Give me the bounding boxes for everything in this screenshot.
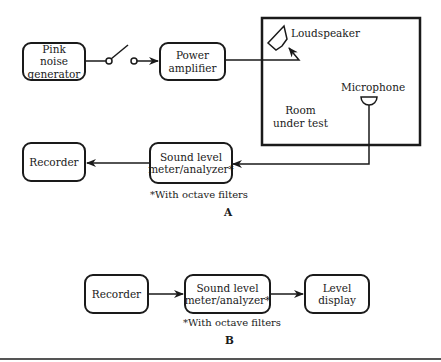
sound-level-meter-box-b: Sound level meter/analyzer*	[184, 274, 271, 314]
level-display-box: Level display	[304, 274, 370, 314]
loudspeaker-icon	[268, 26, 287, 50]
switch-blade	[111, 45, 128, 59]
level-display-label: Level display	[318, 282, 356, 307]
recorder-label-a: Recorder	[29, 156, 78, 169]
room-under-test-label: Room under test	[273, 104, 328, 130]
microphone-label: Microphone	[341, 81, 405, 93]
sound-level-meter-box-a: Sound level meter/analyzer*	[149, 142, 233, 184]
footnote-a: *With octave filters	[150, 189, 248, 200]
power-amplifier-label: Power amplifier	[169, 49, 217, 74]
footnote-b: *With octave filters	[183, 317, 281, 328]
recorder-box-a: Recorder	[22, 142, 86, 182]
microphone-icon	[361, 97, 377, 105]
switch-contact-icon	[131, 58, 137, 64]
pink-noise-generator-box: Pink noise generator	[22, 42, 86, 81]
loudspeaker-label: Loudspeaker	[291, 27, 360, 39]
power-amplifier-box: Power amplifier	[159, 42, 226, 81]
sound-level-meter-label-a: Sound level meter/analyzer*	[148, 151, 234, 176]
pink-noise-generator-label: Pink noise generator	[28, 43, 81, 81]
sound-level-meter-label-b: Sound level meter/analyzer*	[185, 282, 271, 307]
panel-label-a: A	[224, 206, 232, 218]
recorder-label-b: Recorder	[92, 288, 141, 301]
recorder-box-b: Recorder	[84, 274, 149, 314]
measurement-diagram: Pink noise generator Power amplifier Rec…	[0, 0, 441, 362]
panel-label-b: B	[225, 334, 234, 346]
